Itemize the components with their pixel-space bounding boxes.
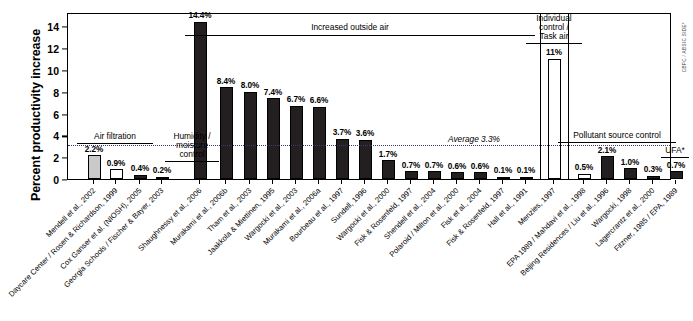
x-tick-mark [652,180,653,184]
y-tick-label: 14 [41,21,59,33]
x-tick-mark [606,180,607,184]
y-tick-label: 6 [41,109,59,121]
x-tick-mark [364,180,365,184]
bar [578,174,591,179]
rule-air-filtration [77,143,153,144]
x-tick-mark [341,180,342,184]
bar-value-label: 0.7% [667,161,686,170]
bar [520,177,533,179]
bar-value-label: 0.7% [402,161,421,170]
bar-value-label: 3.7% [333,128,352,137]
bar [88,155,101,179]
bar-value-label: 0.2% [153,166,172,175]
bar [601,156,614,179]
bar-value-label: 6.6% [310,96,329,105]
bar [110,169,123,179]
bar-value-label: 7.4% [264,88,283,97]
bar [647,176,660,179]
y-tick-mark [62,48,67,49]
label-outside-air: Increased outside air [295,23,405,32]
y-tick-mark [62,114,67,115]
x-tick-mark [199,180,200,184]
label-individual-3: Task air [523,32,585,41]
bar [382,160,395,179]
bar [428,171,441,179]
credit-text: CBPC / ABSIC SIDE* [682,22,687,72]
x-tick-mark [115,180,116,184]
bar [474,172,487,179]
x-tick-mark [410,180,411,184]
bar-value-label: 8.0% [241,81,260,90]
bar-value-label: 0.6% [471,162,490,171]
label-air-filtration: Air filtration [75,132,155,141]
bar [670,171,683,179]
bar-value-label: 0.9% [107,159,126,168]
x-tick-mark [318,180,319,184]
rule-outside-air [185,35,535,36]
y-tick-label: 8 [41,87,59,99]
bar [548,59,561,179]
y-tick-mark [62,179,67,180]
y-tick-mark [62,92,67,93]
x-tick-mark [295,180,296,184]
bar [244,92,257,179]
x-tick-mark [272,180,273,184]
bar [267,98,280,179]
bar-value-label: 11% [546,48,562,57]
bar [220,87,233,179]
y-tick-mark [62,136,67,137]
rule-pollutant-control [558,142,676,143]
bar-value-label: 0.1% [494,166,513,175]
x-tick-mark [161,180,162,184]
bar-value-label: 6.7% [287,95,306,104]
x-tick-mark [525,180,526,184]
x-tick-mark [433,180,434,184]
x-tick-label: Beijing Residences / Liu et al., 1996 [519,186,611,278]
y-tick-label: 12 [41,43,59,55]
x-tick-mark [629,180,630,184]
bar-value-label: 0.4% [131,164,150,173]
rule-ufa [661,157,689,158]
label-humidity-3: control [163,150,221,159]
bar [134,175,147,179]
x-tick-mark [479,180,480,184]
bar [497,177,510,179]
x-tick-mark [139,180,140,184]
bar [156,177,169,179]
bar [313,107,326,179]
y-tick-label: 4 [41,130,59,142]
y-tick-label: 0 [41,174,59,186]
x-tick-mark [456,180,457,184]
bar [290,106,303,179]
bar-value-label: 0.7% [425,161,444,170]
bar-value-label: 1.7% [379,150,398,159]
bar-value-label: 0.6% [448,162,467,171]
y-tick-label: 2 [41,152,59,164]
label-ufa: UFA* [655,146,693,155]
bar-value-label: 2.1% [598,146,617,155]
x-tick-mark [93,180,94,184]
bar-value-label: 3.6% [356,129,375,138]
bar-value-label: 14.4% [188,11,211,20]
rule-humidity [165,161,219,162]
bar-value-label: 0.5% [575,163,594,172]
x-tick-mark [249,180,250,184]
y-tick-label: 10 [41,65,59,77]
average-label: Average 3.3% [448,134,500,144]
x-tick-mark [387,180,388,184]
x-tick-mark [583,180,584,184]
label-pollutant-control: Pollutant source control [556,131,678,140]
average-line [68,145,670,146]
bar [405,171,418,179]
x-tick-mark [553,180,554,184]
bar-value-label: 0.3% [644,165,663,174]
x-tick-mark [502,180,503,184]
bar [624,168,637,179]
x-tick-mark [675,180,676,184]
rule-individual [526,43,582,44]
bar-value-label: 1.0% [621,158,640,167]
y-tick-mark [62,158,67,159]
bar-value-label: 8.4% [217,77,236,86]
y-tick-mark [62,70,67,71]
